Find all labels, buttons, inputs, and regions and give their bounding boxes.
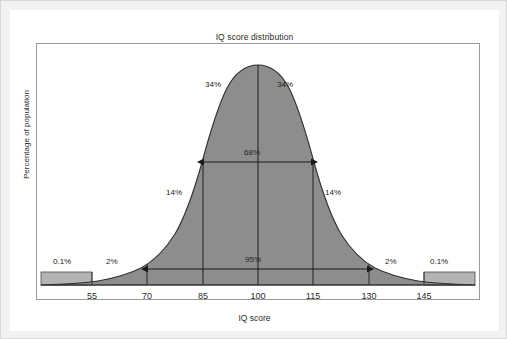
xtick-115: 115 [293,291,333,301]
percent-label-right-14: 14% [325,188,341,197]
y-axis-label: Percentage of population [22,75,31,195]
percent-label-left-14: 14% [166,188,182,197]
plot-area: 34% 34% 68% 14% 14% 95% 0.1% 2% 2% 0.1% [36,43,480,300]
percent-label-right-34: 34% [277,80,293,89]
x-axis-label: IQ score [10,313,499,323]
xtick-100: 100 [238,291,278,301]
xtick-85: 85 [183,291,223,301]
xtick-130: 130 [349,291,389,301]
percent-label-right-2: 2% [385,257,397,266]
xtick-70: 70 [127,291,167,301]
chart-card: IQ score distribution Percentage of popu… [10,10,499,331]
percent-label-span-68: 68% [244,148,260,157]
percent-label-left-2: 2% [106,257,118,266]
percent-label-span-95: 95% [245,255,261,264]
percent-label-left-outer: 0.1% [53,257,71,266]
xtick-145: 145 [404,291,444,301]
chart-title: IQ score distribution [10,32,499,42]
xtick-55: 55 [72,291,112,301]
percent-label-right-outer: 0.1% [430,257,448,266]
percent-label-left-34: 34% [205,80,221,89]
chart-page: IQ score distribution Percentage of popu… [0,0,507,339]
